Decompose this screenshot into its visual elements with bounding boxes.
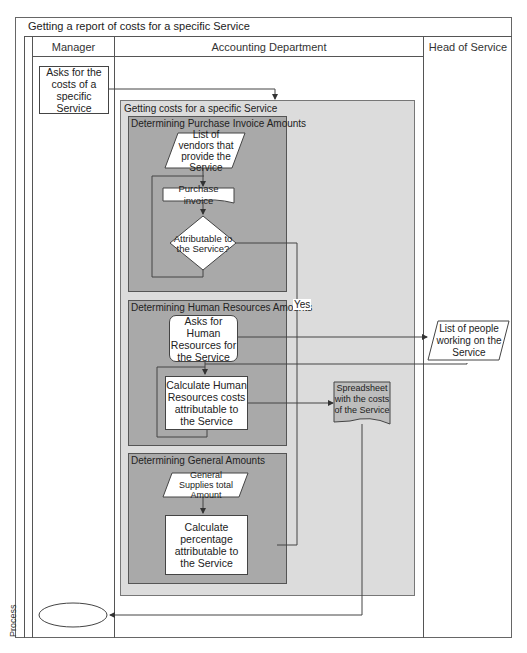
- node-spreadsheet: Spreadsheet with the costs of the Servic…: [334, 383, 390, 416]
- node-calc-pct: Calculate percentage attributable to the…: [165, 515, 248, 575]
- edge-label-yes: Yes: [293, 299, 311, 310]
- node-list-people: List of people working on the Service: [436, 321, 502, 360]
- node-list-vendors: List of vendors that provide the Service: [175, 133, 237, 168]
- node-general-supplies: General Supplies total Amount: [172, 474, 240, 496]
- node-calc-hr: Calculate Human Resources costs attribut…: [165, 376, 248, 430]
- node-purchase-invoice: Purchase invoice: [163, 188, 234, 201]
- node-attributable: Attributable to the Service?: [170, 233, 236, 255]
- node-end-terminator: [39, 603, 107, 627]
- node-ask-hr: Asks for Human Resources for the Service: [169, 315, 238, 362]
